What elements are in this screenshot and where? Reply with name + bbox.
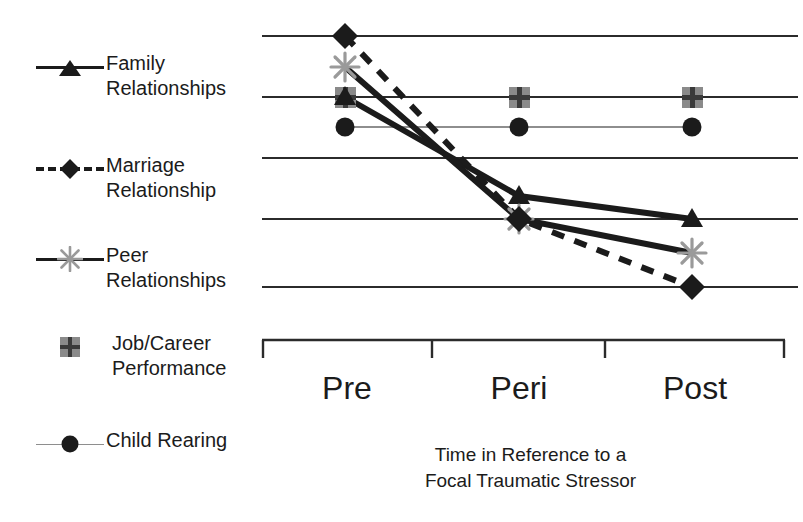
category-label-post: Post	[610, 370, 780, 407]
data-point-peer-post	[678, 239, 706, 267]
chart-figure: Family Relationships Marriage Relationsh…	[0, 0, 803, 522]
data-point-peer-pre	[331, 53, 359, 81]
star-marker-icon	[57, 246, 83, 272]
gridlines	[262, 36, 798, 287]
peer-markers	[331, 53, 706, 267]
square-marker-icon	[60, 337, 80, 357]
legend-label-family-relationships: Family Relationships	[106, 51, 226, 101]
legend-key-family-relationships	[34, 53, 106, 81]
data-point-child-rearing-pre	[336, 118, 355, 137]
x-axis	[262, 340, 785, 358]
legend-item-job-career-performance: Job/Career Performance	[34, 333, 227, 381]
legend-label-marriage-relationship: Marriage Relationship	[106, 153, 216, 203]
legend-label-child-rearing: Child Rearing	[106, 428, 227, 453]
legend-label-peer-relationships: Peer Relationships	[106, 243, 226, 293]
data-point-job-career-post	[682, 87, 703, 108]
legend-item-peer-relationships: Peer Relationships	[34, 245, 226, 293]
legend-label-job-career-performance: Job/Career Performance	[112, 331, 227, 381]
data-point-child-rearing-peri	[510, 118, 529, 137]
legend-item-child-rearing: Child Rearing	[34, 430, 227, 458]
marriage-relationship-line	[345, 36, 692, 287]
chart-legend: Family Relationships Marriage Relationsh…	[0, 0, 258, 522]
category-label-pre: Pre	[262, 370, 432, 407]
diamond-marker-icon	[60, 159, 80, 179]
legend-item-marriage-relationship: Marriage Relationship	[34, 155, 216, 203]
legend-key-child-rearing	[34, 430, 106, 458]
triangle-marker-icon	[59, 60, 81, 76]
data-point-marriage-post	[679, 274, 705, 300]
series-marriage-relationship	[345, 36, 692, 287]
category-label-peri: Peri	[434, 370, 604, 407]
legend-key-marriage-relationship	[34, 155, 106, 183]
x-axis-title: Time in Reference to a Focal Traumatic S…	[258, 442, 803, 494]
data-point-child-rearing-post	[683, 118, 702, 137]
marriage-markers	[332, 23, 705, 300]
legend-item-family-relationships: Family Relationships	[34, 53, 226, 101]
legend-key-job-career-performance	[34, 333, 106, 361]
legend-key-peer-relationships	[34, 245, 106, 273]
data-point-job-career-peri	[509, 87, 530, 108]
circle-marker-icon	[62, 436, 79, 453]
